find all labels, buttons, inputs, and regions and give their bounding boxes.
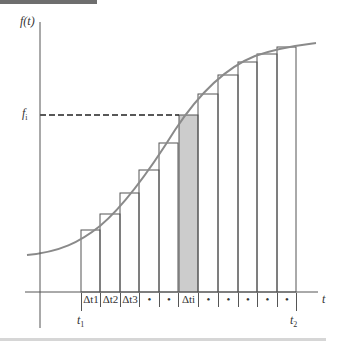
- interval-label: Δt2: [101, 293, 120, 305]
- footer-rule: [0, 338, 326, 341]
- bar-5: [159, 143, 178, 292]
- interval-label: •: [160, 293, 178, 305]
- bar-highlighted: [179, 115, 198, 292]
- bar-4: [139, 170, 159, 292]
- start-label: t1: [77, 313, 84, 329]
- interval-label: •: [140, 293, 159, 305]
- bars: [81, 47, 296, 292]
- end-label: t2: [290, 313, 297, 329]
- bar-2: [100, 214, 120, 292]
- bar-10: [257, 54, 277, 292]
- interval-label: •: [219, 293, 238, 305]
- bar-7: [198, 94, 218, 292]
- x-axis-label: t: [322, 292, 325, 307]
- y-axis-label: f(t): [20, 14, 35, 29]
- bar-3: [120, 193, 139, 292]
- interval-label: •: [258, 293, 277, 305]
- bar-9: [238, 62, 257, 292]
- tick-t2: [296, 293, 297, 311]
- bar-11: [277, 47, 296, 292]
- interval-label: Δt3: [121, 293, 139, 305]
- level-label: fi: [22, 106, 28, 122]
- bar-8: [218, 75, 238, 292]
- interval-label-highlighted: Δti: [179, 293, 198, 305]
- interval-label: Δt1: [82, 293, 100, 305]
- function-curve: [27, 43, 316, 255]
- interval-label: •: [278, 293, 296, 305]
- interval-label: •: [199, 293, 218, 305]
- bar-1: [81, 230, 100, 292]
- interval-label: •: [239, 293, 257, 305]
